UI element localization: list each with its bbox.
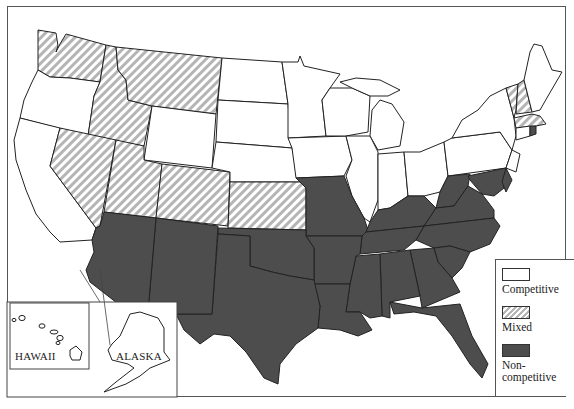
state-washington [38, 30, 106, 82]
state-connecticut [516, 126, 530, 140]
swatch-competitive [502, 268, 530, 281]
legend-item-noncompetitive: Non- competitive [502, 344, 556, 383]
legend-label-noncompetitive-2: competitive [502, 371, 556, 383]
swatch-noncompetitive [502, 344, 530, 357]
state-florida [390, 302, 488, 378]
state-north-dakota [218, 58, 288, 104]
alaska-label: ALASKA [116, 350, 162, 362]
legend-label-competitive: Competitive [502, 283, 559, 295]
state-colorado [156, 164, 230, 226]
hawaii-label: HAWAII [15, 350, 56, 362]
state-maine [524, 44, 562, 112]
legend-item-mixed: Mixed [502, 306, 532, 333]
state-rhode-island [530, 126, 536, 136]
legend-label-noncompetitive-1: Non- [502, 359, 556, 371]
state-new-mexico [148, 218, 218, 316]
legend-item-competitive: Competitive [502, 268, 559, 295]
state-iowa [288, 136, 352, 178]
legend: Competitive Mixed Non- competitive [495, 259, 574, 396]
state-wisconsin [322, 88, 370, 136]
swatch-mixed [502, 306, 530, 319]
state-wyoming [144, 106, 216, 168]
state-ohio [404, 142, 448, 196]
state-kansas [228, 182, 306, 230]
state-south-dakota [216, 100, 292, 148]
legend-label-mixed: Mixed [502, 321, 532, 333]
us-states-map [0, 0, 574, 409]
